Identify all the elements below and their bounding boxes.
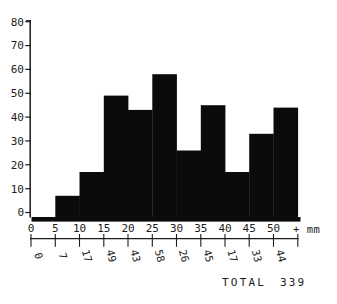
histogram-bar bbox=[55, 196, 80, 219]
y-axis-tick-label: 10 bbox=[11, 183, 24, 196]
bar-value-label: 26 bbox=[177, 248, 192, 263]
histogram-bar bbox=[177, 151, 202, 219]
y-axis-tick-label: 20 bbox=[11, 159, 24, 172]
x-axis-tick-label: 30 bbox=[170, 222, 183, 235]
histogram-bar bbox=[152, 74, 177, 218]
bar-value-label: 45 bbox=[201, 248, 216, 263]
histogram-bar bbox=[128, 110, 153, 219]
y-axis-tick-label: 30 bbox=[11, 135, 24, 148]
x-axis-tick-label: 15 bbox=[97, 222, 110, 235]
y-axis-tick-label: 50 bbox=[11, 87, 24, 100]
x-axis-tick-label: 5 bbox=[52, 222, 59, 235]
bar-value-label: 17 bbox=[225, 248, 240, 263]
histogram-canvas: 0102030405060708005101520253035404550071… bbox=[0, 0, 337, 304]
bar-value-label: 43 bbox=[128, 248, 143, 263]
histogram-bar bbox=[201, 105, 226, 218]
x-axis-tick-label: 10 bbox=[73, 222, 86, 235]
total-label: TOTAL 339 bbox=[222, 276, 306, 289]
y-axis-tick-label: 40 bbox=[11, 111, 24, 124]
y-axis-tick-label: 0 bbox=[17, 206, 24, 219]
histogram-bar bbox=[104, 96, 129, 219]
x-axis-tick-label: 25 bbox=[146, 222, 159, 235]
x-axis-baseline bbox=[32, 217, 301, 222]
y-axis-tick-label: 70 bbox=[11, 39, 24, 52]
histogram-bar bbox=[274, 108, 299, 219]
histogram-bar bbox=[249, 134, 274, 219]
x-axis-tick-label: 35 bbox=[194, 222, 207, 235]
bar-value-label: 58 bbox=[153, 248, 168, 263]
bar-value-label: 44 bbox=[274, 248, 289, 263]
x-axis-unit-label: + mm bbox=[293, 223, 320, 235]
bar-value-label: 17 bbox=[80, 248, 95, 263]
histogram-bar bbox=[225, 172, 250, 219]
bar-value-label: 49 bbox=[104, 248, 119, 263]
x-axis-tick-label: 0 bbox=[28, 222, 35, 235]
bar-value-label: 0 bbox=[32, 251, 45, 260]
histogram-figure: 0102030405060708005101520253035404550071… bbox=[0, 0, 337, 304]
x-axis-tick-label: 45 bbox=[243, 222, 256, 235]
y-axis-tick-label: 80 bbox=[11, 16, 24, 29]
x-axis-tick-label: 50 bbox=[267, 222, 280, 235]
x-axis-tick-label: 40 bbox=[218, 222, 231, 235]
bar-value-label: 33 bbox=[250, 248, 265, 263]
bar-value-label: 7 bbox=[57, 251, 70, 260]
histogram-bar bbox=[80, 172, 105, 219]
x-axis-tick-label: 20 bbox=[121, 222, 134, 235]
y-axis-tick-label: 60 bbox=[11, 63, 24, 76]
